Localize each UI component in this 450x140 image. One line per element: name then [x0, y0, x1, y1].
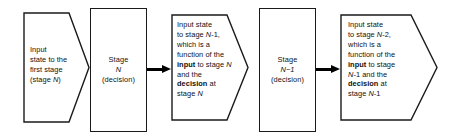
node-input-state-stage-n-2: Input state to stage N-2, which is a fun… [340, 14, 438, 121]
node-3-line-7: decision at [177, 79, 232, 89]
node-5-line-3: which is a [348, 40, 395, 50]
node-4-line-1: Stage [271, 55, 304, 65]
node-2-line-2: N [102, 65, 135, 75]
node-2-line-1: Stage [102, 55, 135, 65]
node-3-label: Input state to stage N-1, which is a fun… [177, 20, 232, 99]
node-2-line-3: (decision) [102, 75, 135, 85]
node-4-line-2: N−1 [271, 65, 304, 75]
node-5-line-2: to stage N-2, [348, 30, 395, 40]
node-1-line-1: Input [30, 45, 67, 55]
node-1-line-3: first stage [30, 65, 67, 75]
node-2-label: Stage N (decision) [102, 55, 135, 86]
node-5-line-8: stage N-1 [348, 89, 395, 99]
node-5-line-6: N-1 and the [348, 70, 395, 80]
node-1-line-4: (stage N) [30, 75, 67, 85]
node-4-line-3: (decision) [271, 75, 304, 85]
node-1-label: Input state to the first stage (stage N) [30, 45, 67, 85]
node-5-line-5: input to stage [348, 60, 395, 70]
arrow-stage-n-1-to-state-3 [316, 65, 340, 74]
node-input-state-stage-n-1: Input state to stage N-1, which is a fun… [171, 14, 249, 121]
node-3-line-4: function of the [177, 50, 232, 60]
node-3-line-1: Input state [177, 20, 232, 30]
node-1-line-2: state to the [30, 55, 67, 65]
node-4-label: Stage N−1 (decision) [271, 55, 304, 86]
node-stage-n: Stage N (decision) [90, 8, 147, 132]
arrow-shaft [147, 68, 163, 71]
node-3-line-6: and the [177, 70, 232, 80]
node-3-line-3: which is a [177, 40, 232, 50]
node-3-line-8: stage N [177, 89, 232, 99]
node-3-line-5: input to stage N [177, 60, 232, 70]
node-5-line-7: decision at [348, 79, 395, 89]
node-input-state-first-stage: Input state to the first stage (stage N) [23, 12, 90, 123]
node-5-label: Input state to stage N-2, which is a fun… [348, 20, 395, 99]
node-stage-n-minus-1: Stage N−1 (decision) [259, 8, 316, 132]
arrow-head [331, 65, 340, 73]
arrow-shaft [316, 68, 332, 71]
arrow-head [162, 65, 171, 73]
node-5-line-4: function of the [348, 50, 395, 60]
diagram-canvas: Input state to the first stage (stage N)… [0, 0, 450, 140]
node-5-line-1: Input state [348, 20, 395, 30]
arrow-stage-n-to-state-2 [147, 65, 171, 74]
node-3-line-2: to stage N-1, [177, 30, 232, 40]
